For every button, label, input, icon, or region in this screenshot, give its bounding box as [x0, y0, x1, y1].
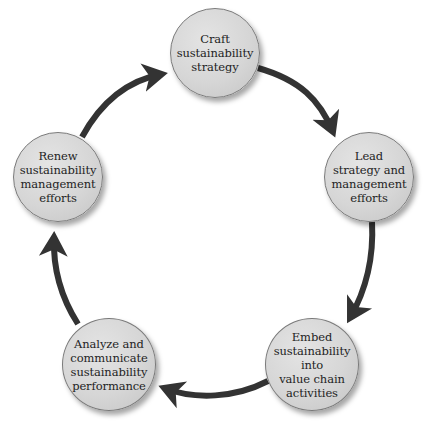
node-renew-efforts: Renew sustainability management efforts — [13, 132, 103, 222]
node-label: Embed sustainability into value chain ac… — [274, 330, 351, 400]
node-label: Analyze and communicate sustainability p… — [70, 337, 147, 393]
arrow-renew-to-craft — [82, 74, 162, 137]
arrow-analyze-to-renew — [54, 237, 78, 324]
node-embed-sustainability: Embed sustainability into value chain ac… — [265, 318, 359, 411]
node-lead-strategy: Lead strategy and management efforts — [324, 132, 414, 222]
arrow-embed-to-analyze — [164, 381, 268, 396]
arrow-craft-to-lead — [258, 68, 333, 132]
sustainability-cycle-diagram: Craft sustainability strategy Lead strat… — [0, 0, 425, 422]
arrow-lead-to-embed — [350, 222, 372, 318]
node-craft-strategy: Craft sustainability strategy — [170, 8, 260, 98]
node-label: Renew sustainability management efforts — [20, 149, 97, 205]
node-label: Lead strategy and management efforts — [332, 149, 407, 205]
node-analyze-communicate: Analyze and communicate sustainability p… — [62, 318, 156, 411]
node-label: Craft sustainability strategy — [177, 32, 254, 74]
